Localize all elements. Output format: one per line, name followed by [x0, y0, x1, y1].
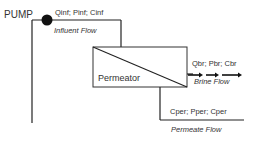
pump-icon: [42, 15, 53, 26]
brine-flow-label: Brine Flow: [194, 78, 229, 86]
influent-flow-label: Influent Flow: [54, 27, 97, 35]
brine-vars: Qbr; Pbr; Cbr: [192, 60, 237, 68]
pump-label: PUMP: [4, 10, 33, 20]
influent-vars: Qinf; Pinf; Cinf: [55, 9, 103, 17]
permeator-label: Permeator: [98, 74, 140, 83]
process-flow-diagram: PUMP Qinf; Pinf; Cinf Influent Flow Perm…: [0, 0, 256, 142]
permeate-vars: Cper; Pper; Cper: [170, 108, 227, 116]
permeate-flow-label: Permeate Flow: [171, 126, 221, 134]
diagram-lines: [0, 0, 256, 142]
